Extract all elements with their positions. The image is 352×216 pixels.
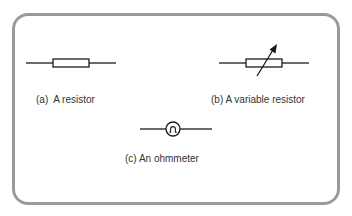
ohmmeter-caption: (c) An ohmmeter	[125, 153, 199, 165]
ohmmeter-symbol	[140, 122, 212, 136]
resistor-body-icon	[53, 59, 89, 67]
resistor-symbol	[26, 59, 116, 67]
ohmmeter-circle-icon	[166, 122, 180, 136]
variable-resistor-caption: (b) A variable resistor	[211, 94, 305, 106]
resistor-caption: (a) A resistor	[36, 94, 95, 106]
arrow-head-icon	[270, 44, 278, 54]
variable-resistor-symbol	[219, 44, 309, 76]
circuit-symbols	[0, 0, 352, 216]
